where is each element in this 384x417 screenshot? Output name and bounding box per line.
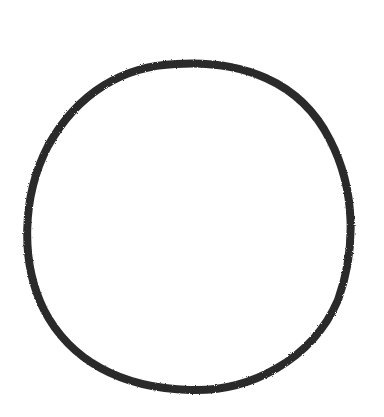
hand-drawn-circle bbox=[27, 64, 350, 391]
drawing-canvas bbox=[0, 0, 384, 417]
